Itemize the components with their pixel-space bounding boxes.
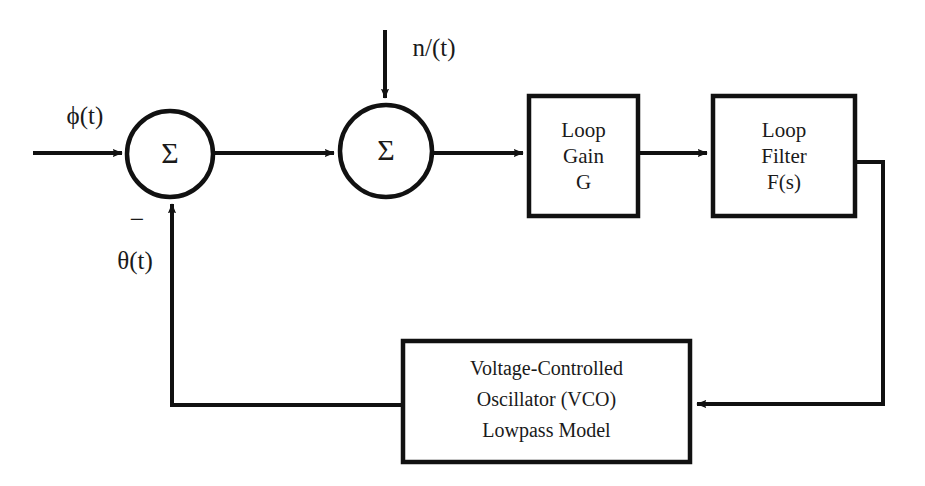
loop-filter-line-3: F(s) [767,170,801,194]
pll-block-diagram: ϕ(t) Σ − θ(t) n/(t) Σ Loop Gain G Loop F… [0,0,925,486]
phase-detector-summer-symbol: Σ [161,136,178,169]
noise-input-label: n/(t) [412,34,455,62]
vco-line-2: Oscillator (VCO) [477,388,616,411]
loop-gain-line-2: Gain [563,144,604,168]
loop-filter-line-2: Filter [761,144,807,168]
feedback-phase-label: θ(t) [117,247,153,275]
loop-gain-line-3: G [576,170,591,194]
loop-filter-line-1: Loop [762,118,806,142]
block-diagram-canvas: ϕ(t) Σ − θ(t) n/(t) Σ Loop Gain G Loop F… [0,0,925,486]
vco-line-3: Lowpass Model [482,419,611,442]
vco-line-1: Voltage-Controlled [470,357,623,380]
vco-to-summer-feedback-wire [172,204,403,405]
input-phase-label: ϕ(t) [67,102,104,130]
loop-gain-line-1: Loop [561,118,605,142]
feedback-minus-sign: − [130,205,145,234]
noise-summer-symbol: Σ [377,133,394,166]
